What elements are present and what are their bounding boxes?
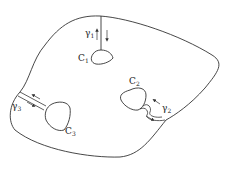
label-gamma3: γ3 [12, 102, 21, 112]
outer-boundary [10, 16, 219, 157]
label-c2: C2 [129, 77, 140, 87]
arrow-gamma3-out [33, 95, 40, 99]
arrow-gamma2-in [154, 100, 160, 104]
label-gamma1: γ1 [85, 29, 94, 39]
cut-gamma2-a [143, 105, 162, 118]
hole-c2 [120, 88, 146, 110]
label-c1: C1 [78, 54, 89, 64]
diagram-drawing [0, 0, 229, 180]
hole-c1 [91, 50, 113, 64]
arrow-gamma2-out [146, 116, 153, 120]
label-gamma2: γ2 [162, 104, 171, 114]
label-c3: C3 [65, 127, 76, 137]
diagram-canvas: γ1 C1 C2 γ2 γ3 C3 [0, 0, 229, 180]
